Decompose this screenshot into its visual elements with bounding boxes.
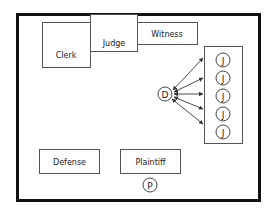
- plaintiff-label: Plaintiff: [135, 158, 166, 167]
- svg-text:J: J: [221, 110, 225, 120]
- plaintiff-node: P: [143, 178, 157, 192]
- juror-4: J: [216, 125, 230, 139]
- plaintiff-box: Plaintiff: [121, 150, 181, 174]
- svg-text:J: J: [221, 128, 225, 138]
- witness-label: Witness: [151, 30, 182, 39]
- defendant-juror-arrows: [172, 58, 203, 124]
- judge-box: Judge: [91, 15, 138, 52]
- judge-label: Judge: [102, 39, 126, 48]
- svg-text:J: J: [221, 74, 225, 84]
- svg-text:P: P: [147, 181, 153, 191]
- svg-text:D: D: [162, 90, 169, 100]
- defense-label: Defense: [53, 158, 86, 167]
- defendant-node: D: [158, 87, 172, 101]
- clerk-box: Clerk: [43, 23, 91, 68]
- svg-text:J: J: [221, 56, 225, 66]
- clerk-label: Clerk: [56, 51, 77, 60]
- svg-text:J: J: [221, 92, 225, 102]
- juror-2: J: [216, 89, 230, 103]
- witness-box: Witness: [138, 23, 198, 45]
- courtroom-diagram: Clerk Judge Witness J J J J J: [0, 0, 272, 213]
- juror-3: J: [216, 107, 230, 121]
- juror-1: J: [216, 71, 230, 85]
- defense-box: Defense: [40, 150, 100, 174]
- juror-0: J: [216, 53, 230, 67]
